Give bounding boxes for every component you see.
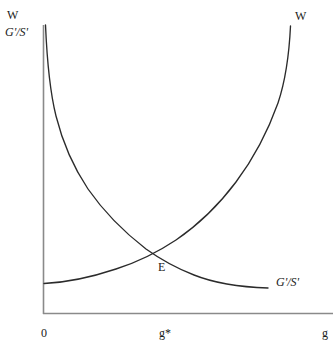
y-axis-top-label-gs: G'/S' — [5, 26, 28, 38]
x-axis-tick-g-star: g* — [159, 327, 171, 339]
curve-w-rising — [44, 26, 291, 284]
equilibrium-point-label: E — [158, 261, 165, 273]
plot-area — [0, 0, 335, 351]
curve-label-w: W — [295, 10, 306, 22]
economics-supply-demand-figure: W G'/S' W G'/S' E 0 g* g — [0, 0, 335, 351]
x-axis-tick-origin: 0 — [41, 327, 47, 339]
x-axis-label: g — [322, 327, 328, 339]
curve-label-gs: G'/S' — [276, 276, 299, 288]
curve-gs-declining — [46, 25, 269, 288]
y-axis-top-label-w: W — [7, 9, 18, 21]
